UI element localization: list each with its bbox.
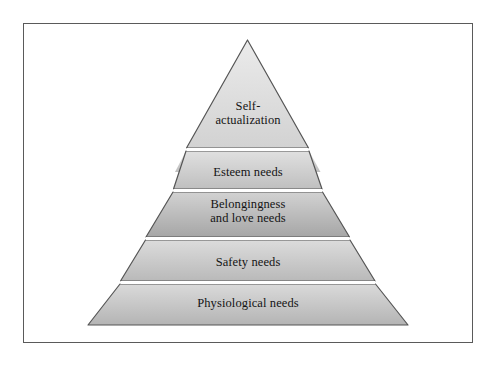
maslow-pyramid-diagram [0, 0, 497, 365]
figure-root: Self- actualization Esteem needs Belongi… [0, 0, 497, 365]
tier-label-belongingness: Belongingness and love needs [158, 197, 338, 225]
tier-label-esteem: Esteem needs [168, 165, 328, 179]
tier-label-self-actualization: Self- actualization [178, 99, 318, 127]
tier-label-safety: Safety needs [148, 255, 348, 269]
tier-label-physiological: Physiological needs [128, 296, 368, 310]
pyramid-tier-self-actualization [187, 40, 309, 148]
